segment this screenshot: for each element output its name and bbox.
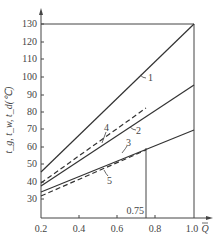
svg-text:120: 120: [22, 36, 37, 47]
svg-text:50: 50: [27, 158, 37, 169]
leader-4: [102, 132, 106, 143]
svg-text:130: 130: [22, 18, 37, 29]
chart-canvas: 130 120 110 100 90 80 70 60 50 40 30 0.2…: [0, 0, 224, 242]
marker-075-label: 0.75: [127, 205, 145, 216]
curve-label-1: 1: [148, 72, 153, 83]
curve-label-4: 4: [104, 122, 109, 133]
svg-text:80: 80: [27, 106, 37, 117]
curve-3: [41, 130, 194, 192]
svg-text:90: 90: [27, 89, 37, 100]
svg-text:100: 100: [22, 71, 37, 82]
curve-label-2: 2: [136, 125, 141, 136]
curve-2: [41, 85, 194, 186]
svg-text:0.8: 0.8: [149, 223, 162, 234]
svg-text:1.0: 1.0: [186, 223, 199, 234]
curves: [41, 24, 194, 196]
curve-label-5: 5: [107, 175, 112, 186]
svg-text:60: 60: [27, 141, 37, 152]
svg-text:0.4: 0.4: [73, 223, 86, 234]
svg-text:110: 110: [22, 53, 37, 64]
y-tick-labels: 130 120 110 100 90 80 70 60 50 40 30: [22, 18, 37, 204]
x-axis-arrow-icon: [206, 216, 213, 220]
x-tick-labels: 0.2 0.4 0.6 0.8 1.0: [35, 223, 199, 234]
svg-text:0.6: 0.6: [111, 223, 124, 234]
svg-text:40: 40: [27, 176, 37, 187]
svg-text:70: 70: [27, 123, 37, 134]
x-axis: [41, 216, 213, 220]
svg-text:0.2: 0.2: [35, 223, 48, 234]
curve-1: [41, 24, 194, 172]
y-axis: [39, 8, 43, 218]
curve-label-3: 3: [126, 137, 131, 148]
y-axis-arrow-icon: [39, 8, 43, 15]
leader-1: [140, 75, 146, 78]
x-axis-title: Q: [201, 223, 209, 234]
svg-text:30: 30: [27, 193, 37, 204]
y-axis-title: t_g, t_w, t_d(℃): [3, 86, 15, 154]
reference-lines: [41, 24, 194, 218]
